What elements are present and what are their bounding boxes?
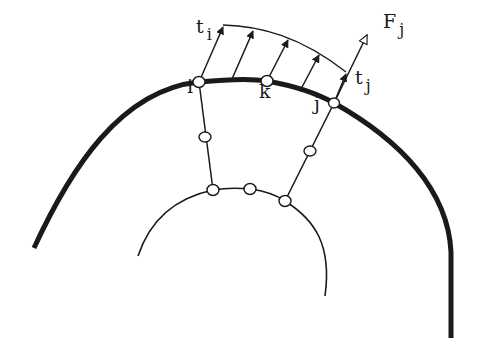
traction-arrow-4: [301, 55, 319, 89]
label-fj-main: F: [383, 10, 396, 32]
node-left-mid: [199, 132, 211, 142]
label-fj-sub: j: [399, 20, 404, 39]
label-node-i: i: [187, 77, 193, 96]
label-node-k: k: [259, 82, 271, 101]
label-ti-sub: i: [207, 25, 212, 44]
label-ti-main: t: [196, 15, 204, 37]
label-tj-sub: j: [366, 76, 371, 95]
label-tj-main: t: [355, 66, 363, 88]
traction-arrow-2: [232, 31, 253, 79]
diagram-canvas: [0, 0, 488, 360]
traction-arrow-3: [267, 40, 288, 81]
label-force-fj: Fj: [383, 12, 404, 31]
node-right-mid: [304, 146, 316, 156]
node-j: [329, 98, 340, 108]
inner-boundary-curve: [138, 188, 327, 296]
node-inner-left: [207, 185, 219, 196]
node-inner-right: [279, 196, 291, 207]
traction-envelope-curve: [223, 25, 346, 72]
node-i: [193, 77, 205, 88]
node-inner-mid: [244, 184, 256, 195]
label-traction-tj: tj: [355, 68, 371, 87]
outer-boundary-curve: [34, 80, 451, 338]
label-traction-ti: ti: [196, 17, 212, 36]
traction-arrows: [199, 27, 346, 103]
label-node-j: j: [314, 94, 320, 113]
